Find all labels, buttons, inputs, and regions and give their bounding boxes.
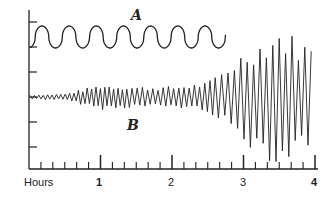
- y-axis-label: Centimeters: [0, 59, 1, 116]
- x-tick-label-4: 4: [311, 176, 317, 188]
- y-ticks: [29, 22, 37, 147]
- x-tick-label-3: 3: [240, 176, 246, 188]
- x-ticks: [41, 155, 315, 169]
- series-a-line: [30, 26, 226, 48]
- series-b-line: [30, 36, 311, 161]
- series-b-label: B: [127, 117, 139, 133]
- x-tick-label-1: 1: [96, 176, 102, 188]
- chart-canvas: [0, 0, 331, 197]
- x-axis-label: Hours: [24, 176, 53, 188]
- x-tick-label-2: 2: [168, 176, 174, 188]
- series-a-label: A: [131, 7, 142, 23]
